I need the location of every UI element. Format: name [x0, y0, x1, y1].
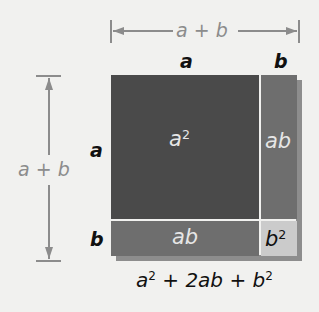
top-label-b: b — [274, 50, 288, 72]
b-squared-label: b2 — [265, 227, 286, 251]
side-label-a: a — [90, 139, 103, 161]
left-dim-plus: + — [36, 158, 52, 180]
ab-right-label: ab — [265, 129, 291, 153]
formula-a: a — [136, 268, 148, 292]
formula-2ab: 2ab — [185, 268, 223, 292]
formula-b-exp: 2 — [265, 269, 273, 283]
left-dimension-label: a + b — [18, 158, 70, 180]
top-label-a: a — [180, 50, 193, 72]
top-dim-b: b — [216, 19, 228, 41]
cell-a-squared: a2 — [111, 75, 259, 219]
top-dim-plus: + — [194, 19, 210, 41]
top-dim-a: a — [176, 19, 188, 41]
expanded-formula: a2 + 2ab + b2 — [136, 268, 273, 292]
formula-b: b — [253, 268, 266, 292]
formula-plus-2: + — [229, 268, 246, 292]
cell-ab-right: ab — [261, 75, 297, 219]
left-dim-a: a — [18, 158, 30, 180]
formula-plus-1: + — [162, 268, 179, 292]
left-dim-b: b — [58, 158, 70, 180]
cell-b-squared: b2 — [261, 221, 297, 256]
top-dimension-label: a + b — [176, 19, 228, 41]
a-squared-label: a2 — [169, 127, 190, 151]
cell-ab-bottom: ab — [111, 221, 259, 256]
side-label-b: b — [90, 228, 104, 250]
formula-a-exp: 2 — [148, 269, 156, 283]
ab-bottom-label: ab — [172, 225, 198, 249]
